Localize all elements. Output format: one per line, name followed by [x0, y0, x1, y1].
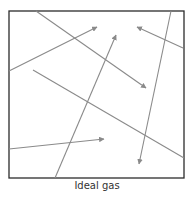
particle-path-4-arrow: [137, 27, 183, 48]
particle-paths: [9, 11, 184, 178]
particle-path-2-arrow: [9, 27, 97, 71]
particle-path-6-line: [33, 70, 184, 158]
diagram-caption: Ideal gas: [0, 180, 194, 191]
particle-path-7-arrow: [9, 139, 104, 149]
particle-path-3-arrow: [55, 35, 116, 178]
ideal-gas-diagram: [0, 0, 194, 198]
